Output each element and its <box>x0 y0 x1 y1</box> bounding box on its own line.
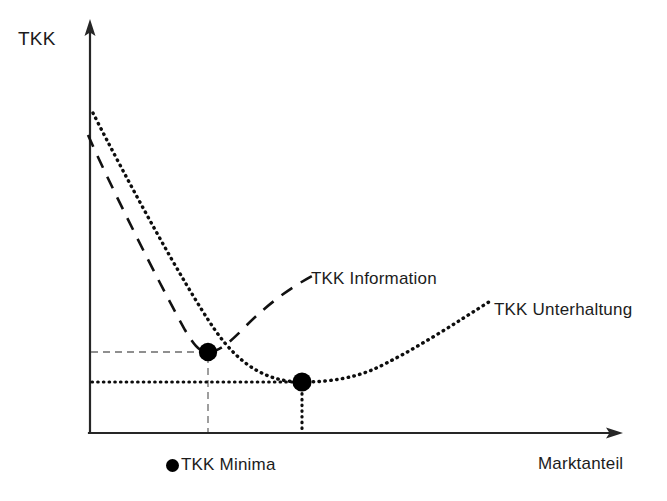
chart-figure: TKK Marktanteil TKK Information TKK Unte… <box>0 0 667 501</box>
minima-markers <box>199 343 312 392</box>
chart-canvas <box>0 0 667 501</box>
series-label-tkk-unterhaltung: TKK Unterhaltung <box>494 300 632 320</box>
minimum-point-unterhaltung <box>292 372 311 391</box>
guides-unterhaltung-minimum <box>92 382 302 432</box>
x-axis-label: Marktanteil <box>538 454 623 474</box>
y-axis-label: TKK <box>18 28 56 50</box>
guides-information-minimum <box>91 352 208 432</box>
series-label-tkk-information: TKK Information <box>311 269 437 289</box>
legend-tkk-minima-label: TKK Minima <box>181 455 276 475</box>
filled-circle-icon <box>166 459 179 472</box>
minimum-point-information <box>199 343 217 361</box>
curve-tkk-unterhaltung <box>93 113 492 382</box>
legend-tkk-minima: TKK Minima <box>166 455 276 475</box>
curve-tkk-information <box>88 135 312 352</box>
